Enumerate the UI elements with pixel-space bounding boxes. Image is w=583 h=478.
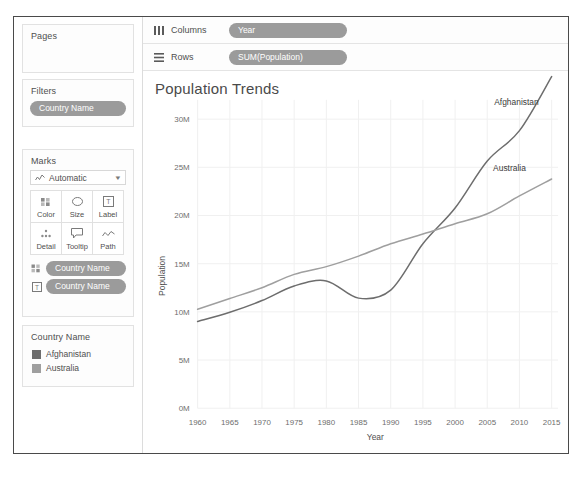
columns-icon [152, 26, 166, 35]
columns-shelf[interactable]: Columns Year [143, 17, 568, 44]
marks-size-label: Size [70, 210, 85, 219]
svg-text:1970: 1970 [253, 418, 271, 427]
svg-text:2000: 2000 [446, 418, 464, 427]
filters-card[interactable]: Filters Country Name [22, 79, 134, 127]
svg-text:Australia: Australia [493, 163, 526, 173]
size-icon [71, 194, 84, 209]
legend-item-afghanistan[interactable]: Afghanistan [32, 349, 91, 359]
legend-swatch-icon [32, 364, 41, 373]
tooltip-icon [71, 226, 83, 241]
label-icon: T [103, 194, 114, 209]
legend-swatch-icon [32, 350, 41, 359]
svg-text:T: T [106, 198, 111, 205]
marks-detail-label: Detail [36, 242, 55, 251]
marks-tooltip-label: Tooltip [66, 242, 88, 251]
marks-color-button[interactable]: Color [30, 190, 62, 223]
svg-text:30M: 30M [174, 115, 189, 124]
color-palette-icon [30, 264, 43, 273]
y-axis-tick-labels: 0M5M10M15M20M25M30M [174, 115, 189, 413]
mark-type-dropdown[interactable]: Automatic ▼ [30, 170, 126, 185]
svg-text:5M: 5M [179, 356, 190, 365]
tableau-window: Pages Filters Country Name Marks Automat… [13, 16, 569, 454]
marks-pill-label-row: T Country Name [30, 279, 126, 294]
svg-text:Afghanistan: Afghanistan [494, 97, 539, 107]
rows-pill-sum-population[interactable]: SUM(Population) [229, 50, 347, 65]
pages-title: Pages [23, 25, 133, 41]
svg-text:20M: 20M [174, 211, 189, 220]
detail-icon [40, 226, 52, 241]
path-icon [102, 226, 115, 241]
svg-text:2005: 2005 [478, 418, 496, 427]
svg-text:2010: 2010 [511, 418, 529, 427]
svg-text:2015: 2015 [543, 418, 561, 427]
legend-title: Country Name [23, 326, 133, 342]
worksheet: Columns Year Rows SUM(Population) Popula… [142, 17, 568, 453]
marks-color-pill-country-name[interactable]: Country Name [46, 261, 126, 276]
svg-text:1980: 1980 [318, 418, 336, 427]
color-legend-card: Country Name Afghanistan Australia [22, 325, 134, 387]
svg-text:1990: 1990 [382, 418, 400, 427]
svg-text:1975: 1975 [285, 418, 303, 427]
marks-label-button[interactable]: T Label [92, 190, 124, 223]
svg-text:15M: 15M [174, 260, 189, 269]
chart-view[interactable]: Population Trends 0M5M10M15M20M25M30M 19… [143, 72, 568, 453]
x-axis-title: Year [367, 432, 384, 442]
filter-pill-country-name[interactable]: Country Name [30, 101, 126, 116]
svg-text:1985: 1985 [350, 418, 368, 427]
svg-text:25M: 25M [174, 163, 189, 172]
legend-item-australia[interactable]: Australia [32, 363, 79, 373]
pages-card[interactable]: Pages [22, 24, 134, 73]
y-axis-title: Population [157, 256, 167, 296]
line-chart-icon [35, 174, 45, 182]
svg-text:1965: 1965 [221, 418, 239, 427]
x-axis-tick-labels: 1960196519701975198019851990199520002005… [189, 418, 561, 427]
svg-text:T: T [35, 283, 39, 290]
columns-pill-year[interactable]: Year [229, 23, 347, 38]
marks-card: Marks Automatic ▼ [22, 149, 134, 317]
population-trends-line-chart[interactable]: 0M5M10M15M20M25M30M 19601965197019751980… [143, 72, 568, 453]
marks-pill-color-row: Country Name [30, 261, 126, 276]
legend-label-australia: Australia [46, 363, 79, 373]
sidebar: Pages Filters Country Name Marks Automat… [14, 17, 142, 453]
rows-shelf[interactable]: Rows SUM(Population) [143, 44, 568, 71]
marks-path-label: Path [100, 242, 115, 251]
chart-series-lines [198, 77, 552, 322]
marks-label-pill-country-name[interactable]: Country Name [46, 279, 126, 294]
legend-label-afghanistan: Afghanistan [46, 349, 91, 359]
marks-label-label: Label [99, 210, 117, 219]
color-palette-icon [40, 194, 52, 209]
marks-detail-button[interactable]: Detail [30, 222, 62, 255]
columns-shelf-label: Columns [171, 25, 225, 35]
svg-text:1960: 1960 [189, 418, 207, 427]
svg-text:0M: 0M [179, 404, 190, 413]
chevron-down-icon[interactable]: ▼ [114, 175, 122, 181]
rows-icon [152, 53, 166, 62]
marks-size-button[interactable]: Size [61, 190, 93, 223]
marks-buttons-grid: Color Size T Label [30, 190, 126, 254]
marks-color-label: Color [37, 210, 55, 219]
label-icon: T [30, 282, 43, 292]
filters-title: Filters [23, 80, 133, 96]
marks-path-button[interactable]: Path [92, 222, 124, 255]
marks-tooltip-button[interactable]: Tooltip [61, 222, 93, 255]
svg-text:1995: 1995 [414, 418, 432, 427]
svg-text:10M: 10M [174, 308, 189, 317]
mark-type-label: Automatic [49, 173, 115, 183]
marks-title: Marks [23, 150, 133, 166]
rows-shelf-label: Rows [171, 52, 225, 62]
